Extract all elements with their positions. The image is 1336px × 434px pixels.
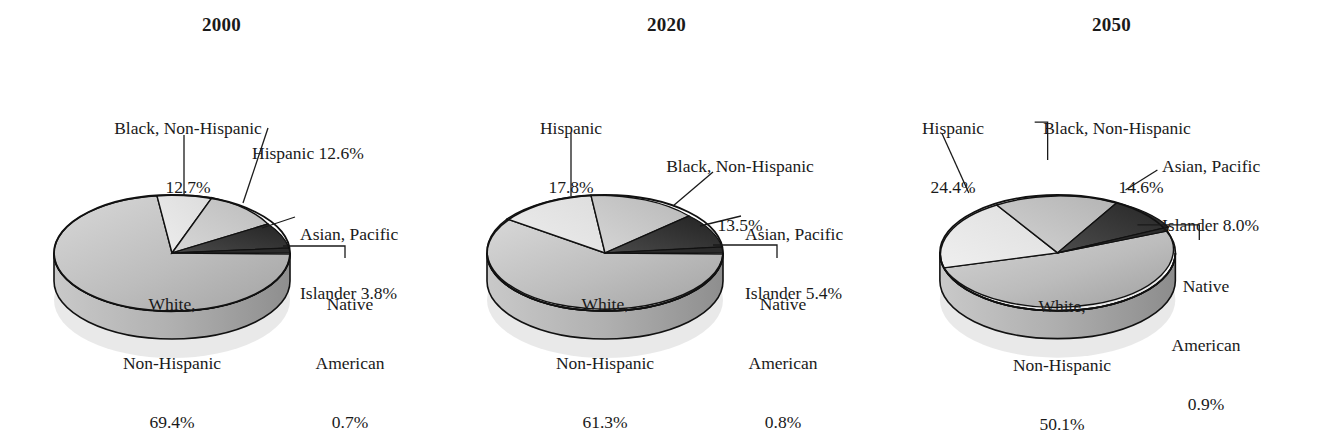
label-native-line1: Native <box>729 295 837 315</box>
label-white-line2: Non-Hispanic <box>82 354 262 374</box>
label-white-line1: White, <box>82 295 262 315</box>
label-native-line1: Native <box>296 295 404 315</box>
label-native-american: Native American 0.7% <box>296 256 404 434</box>
label-native-line3: 0.7% <box>296 413 404 433</box>
label-white-non-hispanic: White, Non-Hispanic 69.4% <box>82 256 262 434</box>
pie-panel-2020: 2020 <box>445 0 890 398</box>
label-asian-line2: Islander 8.0% <box>1162 216 1332 236</box>
label-white-non-hispanic: White, Non-Hispanic 50.1% <box>972 258 1152 434</box>
label-white-line2: Non-Hispanic <box>972 356 1152 376</box>
label-native-line2: American <box>729 354 837 374</box>
label-hispanic-line1: Hispanic <box>898 119 1008 139</box>
label-white-non-hispanic: White, Non-Hispanic 61.3% <box>515 256 695 434</box>
label-white-line2: Non-Hispanic <box>515 354 695 374</box>
label-white-line3: 50.1% <box>972 415 1152 434</box>
label-hispanic-line1: Hispanic 12.6% <box>252 144 452 164</box>
label-asian-line1: Asian, Pacific <box>745 225 905 245</box>
label-white-line1: White, <box>515 295 695 315</box>
label-native-american: Native American 0.9% <box>1152 238 1260 434</box>
pie-panel-2000: 2000 <box>0 0 445 398</box>
label-native-line2: American <box>296 354 404 374</box>
label-white-line3: 61.3% <box>515 413 695 433</box>
label-asian-line1: Asian, Pacific <box>300 225 460 245</box>
label-white-line1: White, <box>972 297 1152 317</box>
label-black-line1: Black, Non-Hispanic <box>633 157 847 177</box>
label-native-line3: 0.8% <box>729 413 837 433</box>
label-native-american: Native American 0.8% <box>729 256 837 434</box>
label-hispanic: Hispanic 24.4% <box>898 80 1008 237</box>
label-white-line3: 69.4% <box>82 413 262 433</box>
label-native-line3: 0.9% <box>1152 395 1260 415</box>
label-asian-line1: Asian, Pacific <box>1162 157 1332 177</box>
label-native-line1: Native <box>1152 277 1260 297</box>
label-hispanic-line2: 24.4% <box>898 178 1008 198</box>
label-native-line2: American <box>1152 336 1260 356</box>
pie-panel-2050: 2050 <box>890 0 1335 398</box>
